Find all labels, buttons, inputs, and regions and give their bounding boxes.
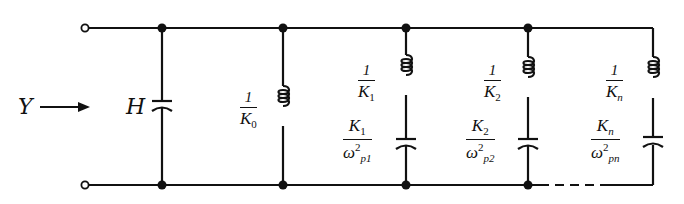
circuit-diagram: Y H 1 K0 1 K1 K1 ω2p1 1 K2 K2 ω2p2 1 Kn …: [0, 0, 684, 204]
circuit-wires: [0, 0, 684, 204]
terminal-top-icon: [81, 24, 88, 31]
shunt-capacitor-label: H: [126, 96, 145, 118]
inductor-k0-label: 1 K0: [240, 90, 257, 130]
input-admittance-label: Y: [18, 96, 33, 118]
arrow-head-icon: [78, 102, 90, 112]
inductor-kn-label: 1 Kn: [606, 63, 623, 103]
capacitor-kn-label: Kn ω2pn: [591, 117, 620, 164]
inductor-k1-label: 1 K1: [358, 63, 375, 103]
capacitor-k1-label: K1 ω2p1: [343, 117, 372, 164]
capacitor-k2-label: K2 ω2p2: [466, 117, 495, 164]
inductor-k2-label: 1 K2: [484, 63, 501, 103]
terminal-bottom-icon: [81, 181, 88, 188]
